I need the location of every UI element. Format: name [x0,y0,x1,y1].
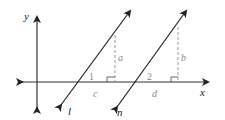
right-angle-marker-a [107,77,115,82]
coordinate-diagram: y x l n a b c d 1 2 [0,0,225,120]
x-axis-label: x [199,86,205,98]
diagram-canvas: y x l n a b c d 1 2 [0,0,225,120]
segment-b-label: b [181,52,186,63]
angle-1-label: 1 [89,71,94,82]
segment-a-label: a [118,52,123,63]
line-l-label: l [68,105,71,117]
y-axis-label: y [23,10,29,22]
segment-c-label: c [93,88,98,99]
segment-d-label: d [152,88,158,99]
line-n-label: n [117,106,123,118]
angle-2-label: 2 [147,71,152,82]
right-angle-marker-b [171,77,178,82]
